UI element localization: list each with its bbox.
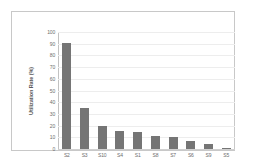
y-axis-tick-label: 30 xyxy=(50,111,55,116)
y-axis-tick-label: 10 xyxy=(50,135,55,140)
x-axis-tick-label: S3 xyxy=(76,153,94,163)
bar-S7 xyxy=(169,137,178,149)
x-axis-tick-label: S8 xyxy=(147,153,165,163)
x-axis-tick-label: S9 xyxy=(200,153,218,163)
bar-S1 xyxy=(133,132,142,149)
bar-slot xyxy=(217,32,235,149)
chart-frame: Utilization Rate (%) 0102030405060708090… xyxy=(11,11,235,151)
bar-S10 xyxy=(98,126,107,149)
x-axis-tick-labels: S2S3S10S4S1S8S7S6S9S5 xyxy=(58,153,235,163)
bar-slot xyxy=(76,32,94,149)
y-axis-tick-label: 20 xyxy=(50,123,55,128)
y-axis-tick-label: 60 xyxy=(50,76,55,81)
x-axis-tick-label: S7 xyxy=(164,153,182,163)
bar-S8 xyxy=(151,136,160,149)
y-axis-tick-label: 100 xyxy=(47,30,55,35)
bar-slot xyxy=(111,32,129,149)
bar-slot xyxy=(129,32,147,149)
bar-S2 xyxy=(62,43,71,149)
bar-slot xyxy=(164,32,182,149)
bar-S3 xyxy=(80,108,89,149)
y-axis-title-label: Utilization Rate (%) xyxy=(28,67,34,115)
y-axis-title: Utilization Rate (%) xyxy=(25,32,36,149)
chart-figure: Utilization Rate (%) 0102030405060708090… xyxy=(0,0,256,165)
x-axis-tick-label: S10 xyxy=(93,153,111,163)
y-axis-tick-label: 40 xyxy=(50,100,55,105)
gridline xyxy=(58,149,235,150)
y-axis-tick-label: 70 xyxy=(50,65,55,70)
bar-slot xyxy=(182,32,200,149)
x-axis-tick-label: S5 xyxy=(217,153,235,163)
bar-S5 xyxy=(222,148,231,149)
bar-slot xyxy=(93,32,111,149)
bar-slot xyxy=(200,32,218,149)
bar-slot xyxy=(58,32,76,149)
bar-S4 xyxy=(115,131,124,149)
x-axis-tick-label: S1 xyxy=(129,153,147,163)
y-axis-tick-label: 80 xyxy=(50,53,55,58)
y-axis-tick-label: 50 xyxy=(50,88,55,93)
y-axis-tick-label: 0 xyxy=(52,147,55,152)
x-axis-tick-label: S4 xyxy=(111,153,129,163)
bar-slot xyxy=(147,32,165,149)
bar-series xyxy=(58,32,235,149)
y-axis-tick-label: 90 xyxy=(50,41,55,46)
x-axis-tick-label: S2 xyxy=(58,153,76,163)
bar-S6 xyxy=(186,141,195,149)
plot-area xyxy=(58,32,235,149)
y-axis-tick-labels: 0102030405060708090100 xyxy=(36,32,55,149)
bar-S9 xyxy=(204,144,213,149)
x-axis-tick-label: S6 xyxy=(182,153,200,163)
